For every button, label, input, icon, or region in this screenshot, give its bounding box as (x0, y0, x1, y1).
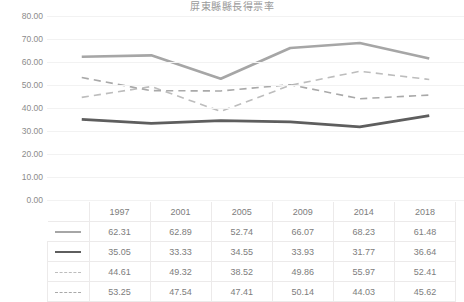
table-column-header: 2018 (394, 202, 455, 222)
table-body: 62.3162.8952.7466.0768.2361.4835.0533.33… (48, 222, 456, 302)
table-column-header: 2001 (150, 202, 211, 222)
table-header-row: 199720012005200920142018 (48, 202, 456, 222)
table-cell: 52.41 (394, 262, 455, 282)
legend-marker-cell (48, 282, 90, 302)
series-line-series-4 (82, 78, 430, 99)
table-cell: 53.25 (89, 282, 150, 302)
table-cell: 31.77 (333, 242, 394, 262)
plot-area (47, 16, 464, 200)
y-axis-tick-label: 0.00 (26, 195, 43, 205)
y-axis-tick-label: 80.00 (22, 11, 43, 21)
table-row: 35.0533.3334.5533.9331.7736.64 (48, 242, 456, 262)
table-column-header: 2014 (333, 202, 394, 222)
table-cell: 49.86 (272, 262, 333, 282)
legend-line-icon (55, 231, 81, 233)
gridline (47, 200, 464, 201)
legend-line-icon (55, 251, 81, 253)
y-axis-tick-label: 40.00 (22, 103, 43, 113)
y-axis-tick-label: 10.00 (22, 172, 43, 182)
gridline (47, 16, 464, 17)
table-cell: 35.05 (89, 242, 150, 262)
table-cell: 47.41 (211, 282, 272, 302)
table-cell: 49.32 (150, 262, 211, 282)
table-cell: 61.48 (394, 222, 455, 242)
table-row: 62.3162.8952.7466.0768.2361.48 (48, 222, 456, 242)
y-axis-tick-label: 50.00 (22, 80, 43, 90)
y-axis-tick-label: 60.00 (22, 57, 43, 67)
chart-title: 屏東縣縣長得票率 (0, 0, 464, 14)
gridline (47, 62, 464, 63)
table-cell: 38.52 (211, 262, 272, 282)
table-cell: 44.03 (333, 282, 394, 302)
table-column-header: 2005 (211, 202, 272, 222)
gridline (47, 39, 464, 40)
table-cell: 47.54 (150, 282, 211, 302)
table-cell: 34.55 (211, 242, 272, 262)
data-table: 199720012005200920142018 62.3162.8952.74… (47, 202, 456, 302)
table-row: 53.2547.5447.4150.1444.0345.62 (48, 282, 456, 302)
y-axis-tick-label: 70.00 (22, 34, 43, 44)
series-line-series-3 (82, 71, 430, 111)
table-cell: 55.97 (333, 262, 394, 282)
table-cell: 62.89 (150, 222, 211, 242)
plot-container: 0.0010.0020.0030.0040.0050.0060.0070.008… (0, 16, 464, 200)
table-cell: 45.62 (394, 282, 455, 302)
table-column-header: 2009 (272, 202, 333, 222)
gridline (47, 177, 464, 178)
table-cell: 44.61 (89, 262, 150, 282)
y-axis-tick-label: 20.00 (22, 149, 43, 159)
table-cell: 62.31 (89, 222, 150, 242)
legend-marker-cell (48, 242, 90, 262)
table-cell: 33.93 (272, 242, 333, 262)
gridline (47, 154, 464, 155)
series-line-series-2 (82, 116, 430, 127)
table-cell: 50.14 (272, 282, 333, 302)
table-cell: 52.74 (211, 222, 272, 242)
table-cell: 66.07 (272, 222, 333, 242)
gridline (47, 131, 464, 132)
table-column-header: 1997 (89, 202, 150, 222)
gridline (47, 85, 464, 86)
table-cell: 68.23 (333, 222, 394, 242)
legend-line-icon (55, 292, 81, 293)
legend-marker-cell (48, 222, 90, 242)
gridline (47, 108, 464, 109)
y-axis-tick-label: 30.00 (22, 126, 43, 136)
legend-marker-cell (48, 262, 90, 282)
table-row: 44.6149.3238.5249.8655.9752.41 (48, 262, 456, 282)
table-cell: 33.33 (150, 242, 211, 262)
legend-header-cell (48, 202, 90, 222)
legend-line-icon (55, 272, 81, 273)
table-cell: 36.64 (394, 242, 455, 262)
y-axis: 0.0010.0020.0030.0040.0050.0060.0070.008… (0, 16, 47, 200)
